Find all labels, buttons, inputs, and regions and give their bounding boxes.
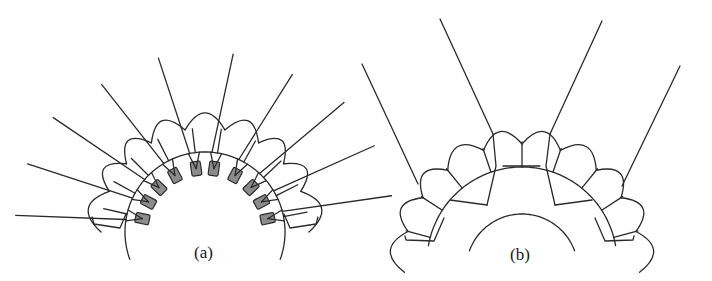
caption-b: (b) [510, 245, 530, 265]
radial-line [239, 75, 292, 160]
block-scallop [596, 169, 623, 198]
block-inner-arc [428, 167, 615, 246]
radial-line [158, 58, 189, 153]
radial-line [212, 54, 233, 152]
block-joint [446, 169, 462, 188]
radial-line [362, 64, 418, 184]
block-scallop [420, 169, 447, 198]
block-scallop [484, 131, 522, 150]
caption-a: (a) [194, 243, 213, 263]
radial-line [28, 164, 133, 198]
joint-line [192, 129, 195, 153]
block-joint [406, 231, 430, 237]
panel-a-diagram [16, 54, 392, 259]
joint-line [104, 209, 127, 214]
block-joint [582, 169, 598, 188]
block-scallop [636, 231, 654, 272]
block-scallop [448, 145, 484, 171]
joint-line [218, 129, 222, 153]
foot-left [405, 218, 444, 241]
block-scallop [400, 198, 423, 232]
block-joint [602, 197, 623, 211]
block-scallop [225, 120, 259, 143]
connector [450, 200, 487, 205]
figure-canvas [0, 0, 712, 281]
radial-line [282, 196, 391, 212]
joint-line [276, 185, 297, 196]
block-joint [421, 197, 442, 211]
radial-line [53, 118, 144, 180]
block-scallop [560, 145, 596, 171]
radial-line [622, 66, 680, 186]
connector [555, 200, 592, 205]
joint-line [284, 212, 308, 217]
foot-left [92, 214, 126, 228]
block-joint [483, 149, 491, 173]
radial-line [274, 146, 375, 191]
radial-line [102, 85, 164, 164]
block-scallop [522, 131, 560, 150]
connector [487, 134, 496, 205]
block-scallop [259, 138, 286, 163]
radial-line [440, 19, 493, 134]
panel-b-diagram [362, 19, 680, 272]
block-joint [553, 149, 561, 173]
joint-line [114, 182, 135, 194]
joint-line [244, 141, 256, 162]
radial-line [16, 215, 126, 219]
radial-line [550, 21, 602, 134]
block-scallop [621, 198, 644, 232]
